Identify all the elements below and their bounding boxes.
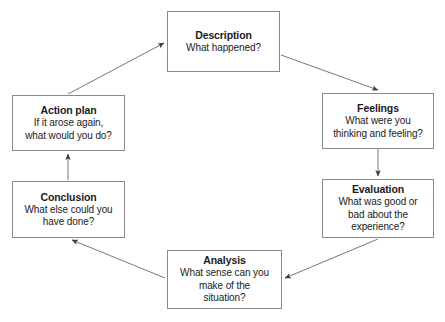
node-action-plan-line-1: If it arose again, <box>34 117 103 129</box>
node-conclusion-title: Conclusion <box>40 191 96 204</box>
node-evaluation-line-2: bad about the <box>348 209 408 221</box>
node-conclusion[interactable]: Conclusion What else could you have done… <box>12 181 125 238</box>
node-feelings-line-2: thinking and feeling? <box>333 128 423 140</box>
arrow-evaluation-to-analysis <box>285 239 378 278</box>
node-feelings[interactable]: Feelings What were you thinking and feel… <box>322 93 434 149</box>
node-conclusion-line-1: What else could you <box>24 204 112 216</box>
node-analysis-line-1: What sense can you <box>180 267 269 279</box>
node-description[interactable]: Description What happened? <box>167 11 280 72</box>
node-evaluation-line-1: What was good or <box>339 196 418 208</box>
node-analysis-title: Analysis <box>203 254 245 267</box>
arrow-description-to-feelings <box>281 55 378 90</box>
arrow-actionplan-to-description <box>68 43 164 94</box>
node-evaluation[interactable]: Evaluation What was good or bad about th… <box>322 179 434 238</box>
node-evaluation-line-3: experience? <box>351 221 404 233</box>
node-description-line-1: What happened? <box>186 42 261 54</box>
node-action-plan-title: Action plan <box>40 104 96 117</box>
gibbs-reflective-cycle-diagram: Description What happened? Feelings What… <box>0 0 445 322</box>
node-evaluation-title: Evaluation <box>352 183 404 196</box>
node-conclusion-line-2: have done? <box>43 216 94 228</box>
node-analysis-line-3: situation? <box>204 292 246 304</box>
node-action-plan-line-2: what would you do? <box>25 130 112 142</box>
node-feelings-line-1: What were you <box>345 115 410 127</box>
node-analysis[interactable]: Analysis What sense can you make of the … <box>167 250 282 309</box>
node-feelings-title: Feelings <box>357 102 399 115</box>
arrow-analysis-to-conclusion <box>72 240 165 278</box>
node-action-plan[interactable]: Action plan If it arose again, what woul… <box>12 95 125 151</box>
node-analysis-line-2: make of the <box>199 280 250 292</box>
node-description-title: Description <box>195 29 252 42</box>
